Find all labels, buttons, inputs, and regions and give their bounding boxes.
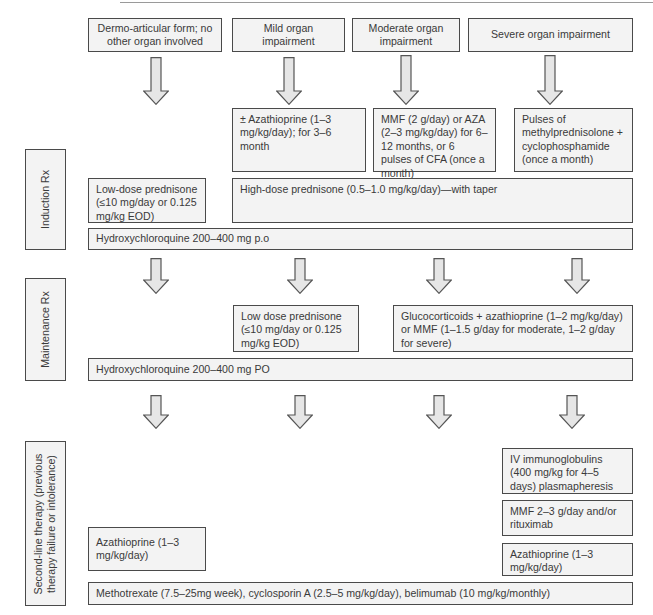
second-line-azathioprine-right-box: Azathioprine (1–3 mg/kg/day) (502, 543, 633, 576)
maintenance-low-dose-box: Low dose prednisone (≤10 mg/day or 0.125… (233, 305, 359, 352)
down-arrow-icon (426, 395, 452, 429)
down-arrow-icon (426, 258, 452, 294)
down-arrow-icon (537, 55, 563, 105)
down-arrow-icon (276, 57, 302, 105)
second-line-azathioprine-left-box: Azathioprine (1–3 mg/kg/day) (88, 527, 206, 571)
induction-moderate-box: MMF (2 g/day) or AZA (2–3 mg/kg/day) for… (373, 108, 496, 172)
down-arrow-icon (564, 258, 590, 294)
second-line-label-line2: therapy failure or intolerance) (46, 453, 59, 594)
top-divider (120, 2, 653, 3)
induction-hydroxychloroquine-box: Hydroxychloroquine 200–400 mg p.o (88, 228, 633, 250)
down-arrow-icon (559, 395, 585, 429)
maintenance-glucocorticoids-box: Glucocorticoids + azathioprine (1–2 mg/k… (393, 305, 633, 352)
second-line-ivig-box: IV immunoglobulins (400 mg/kg for 4–5 da… (502, 448, 633, 494)
induction-low-dose-box: Low-dose prednisone (≤10 mg/day or 0.125… (88, 178, 206, 223)
induction-label-text: Induction Rx (39, 170, 52, 229)
section-label-second-line: Second-line therapy (previous therapy fa… (25, 441, 66, 606)
maintenance-hydroxychloroquine-box: Hydroxychloroquine 200–400 mg PO (88, 358, 633, 381)
down-arrow-icon (143, 258, 169, 294)
header-moderate: Moderate organ impairment (352, 18, 460, 52)
second-line-label-text: Second-line therapy (previous therapy fa… (33, 453, 59, 594)
header-severe: Severe organ impairment (468, 18, 633, 52)
header-dermo-articular: Dermo-articular form; no other organ inv… (88, 18, 222, 52)
down-arrow-icon (143, 395, 169, 429)
header-mild: Mild organ impairment (232, 18, 345, 52)
induction-mild-box: ± Azathioprine (1–3 mg/kg/day); for 3–6 … (232, 108, 366, 172)
section-label-maintenance: Maintenance Rx (25, 278, 66, 381)
induction-high-dose-box: High-dose prednisone (0.5–1.0 mg/kg/day)… (232, 178, 633, 223)
section-label-induction: Induction Rx (25, 149, 66, 250)
second-line-label-line1: Second-line therapy (previous (33, 453, 46, 594)
down-arrow-icon (143, 57, 169, 105)
induction-severe-box: Pulses of methylprednisolone + cyclophos… (514, 108, 633, 172)
down-arrow-icon (287, 395, 313, 429)
second-line-methotrexate-box: Methotrexate (7.5–25mg week), cyclospori… (88, 582, 633, 605)
down-arrow-icon (287, 258, 313, 294)
down-arrow-icon (393, 55, 419, 105)
maintenance-label-text: Maintenance Rx (39, 291, 52, 368)
second-line-mmf-box: MMF 2–3 g/day and/or rituximab (502, 500, 633, 536)
